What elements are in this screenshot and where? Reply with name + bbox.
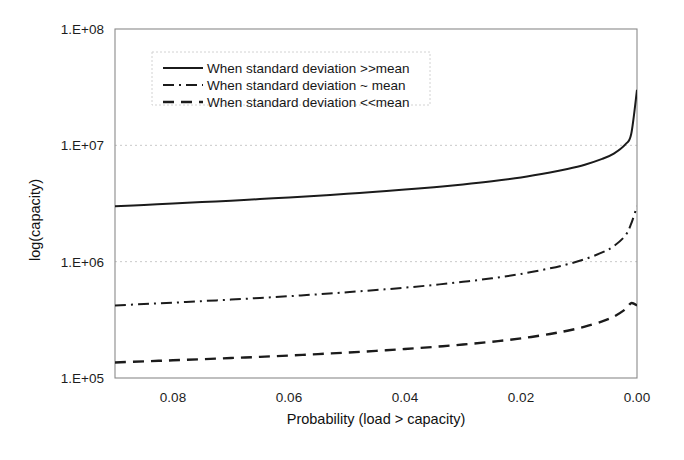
x-axis-title: Probability (load > capacity) bbox=[287, 411, 466, 427]
y-axis-tick-label: 1.E+07 bbox=[61, 138, 104, 153]
y-axis-tick-label: 1.E+06 bbox=[61, 255, 104, 270]
legend-label: When standard deviation >>mean bbox=[207, 61, 410, 76]
log-capacity-vs-probability-chart: 1.E+081.E+071.E+061.E+05 0.080.060.040.0… bbox=[0, 0, 684, 460]
legend-label: When standard deviation ~ mean bbox=[207, 78, 406, 93]
y-axis-tick-label: 1.E+08 bbox=[61, 22, 104, 37]
y-axis-tick-label: 1.E+05 bbox=[61, 371, 104, 386]
chart-container: 1.E+081.E+071.E+061.E+05 0.080.060.040.0… bbox=[0, 0, 684, 460]
x-axis-tick-label: 0.00 bbox=[624, 390, 650, 405]
x-axis-tick-label: 0.08 bbox=[160, 390, 186, 405]
x-axis-tick-label: 0.04 bbox=[392, 390, 419, 405]
y-axis-title: log(capacity) bbox=[27, 179, 43, 261]
x-axis-tick-label: 0.06 bbox=[276, 390, 302, 405]
legend-label: When standard deviation <<mean bbox=[207, 95, 410, 110]
x-axis-tick-label: 0.02 bbox=[508, 390, 534, 405]
